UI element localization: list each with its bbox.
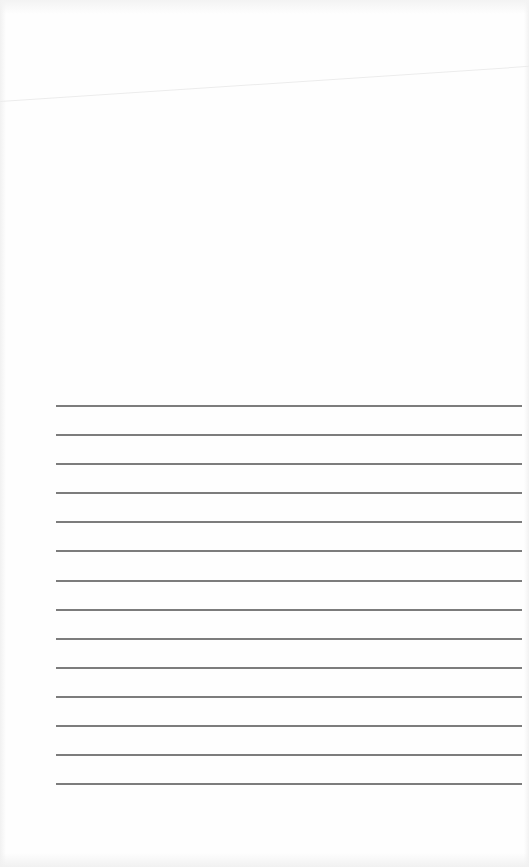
ruled-line (56, 638, 522, 640)
paper-fold-crease (0, 66, 529, 102)
ruled-line (56, 725, 522, 727)
ruled-line (56, 550, 522, 552)
ruled-line (56, 521, 522, 523)
ruled-line (56, 667, 522, 669)
page-edge-shadow-left (0, 0, 6, 867)
ruled-line (56, 609, 522, 611)
page-edge-shadow-bottom (0, 853, 529, 867)
ruled-line (56, 463, 522, 465)
ruled-line (56, 783, 522, 785)
ruled-lines (56, 405, 522, 812)
ruled-page (0, 0, 529, 867)
ruled-line (56, 405, 522, 407)
page-edge-shadow-top (0, 0, 529, 14)
ruled-line (56, 434, 522, 436)
page-edge-shadow-right (524, 0, 529, 867)
ruled-line (56, 492, 522, 494)
ruled-line (56, 696, 522, 698)
ruled-line (56, 580, 522, 582)
ruled-line (56, 754, 522, 756)
